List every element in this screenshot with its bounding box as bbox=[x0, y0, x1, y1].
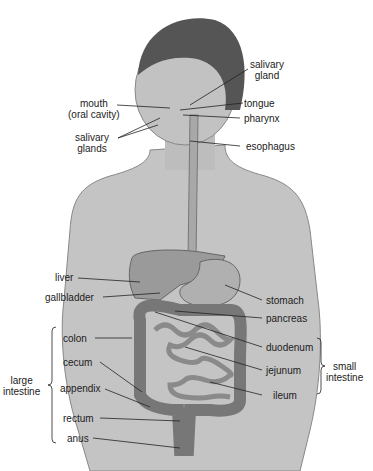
label-line: (oral cavity) bbox=[68, 109, 120, 120]
label-cecum: cecum bbox=[63, 357, 92, 368]
label-mouth: mouth(oral cavity) bbox=[68, 98, 120, 120]
label-line: intestine bbox=[326, 372, 363, 383]
label-line: salivary bbox=[250, 59, 284, 70]
label-rectum: rectum bbox=[63, 413, 94, 424]
label-tongue: tongue bbox=[244, 98, 275, 109]
label-jejunum: jejunum bbox=[266, 365, 301, 376]
label-salivary-gland: salivarygland bbox=[250, 59, 284, 81]
label-liver: liver bbox=[55, 272, 73, 283]
label-pancreas: pancreas bbox=[266, 313, 307, 324]
label-esophagus: esophagus bbox=[246, 141, 295, 152]
label-colon: colon bbox=[63, 333, 87, 344]
label-stomach: stomach bbox=[266, 295, 304, 306]
label-gallbladder: gallbladder bbox=[45, 292, 94, 303]
label-line: large bbox=[11, 375, 33, 386]
label-appendix: appendix bbox=[60, 383, 101, 394]
label-anus: anus bbox=[67, 433, 89, 444]
label-duodenum: duodenum bbox=[266, 342, 313, 353]
label-line: mouth bbox=[80, 98, 108, 109]
label-pharynx: pharynx bbox=[244, 113, 280, 124]
label-large-intestine: largeintestine bbox=[3, 375, 40, 397]
label-salivary-glands: salivaryglands bbox=[75, 132, 109, 154]
label-ileum: ileum bbox=[273, 390, 297, 401]
label-line: glands bbox=[77, 143, 106, 154]
esophagus-organ bbox=[188, 115, 198, 260]
label-small-intestine: smallintestine bbox=[326, 361, 363, 383]
digestive-system-illustration bbox=[0, 0, 373, 471]
label-line: small bbox=[333, 361, 356, 372]
label-line: gland bbox=[255, 70, 279, 81]
label-line: intestine bbox=[3, 386, 40, 397]
label-line: salivary bbox=[75, 132, 109, 143]
large-intestine-brace bbox=[48, 327, 56, 443]
